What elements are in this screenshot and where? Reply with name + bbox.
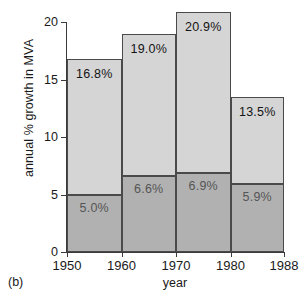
x-tick-label-1950: 1950	[44, 258, 90, 273]
x-tick-mark-1988	[284, 252, 285, 257]
x-tick-mark-1980	[231, 252, 232, 257]
bar-1980-total-label: 13.5%	[232, 105, 284, 119]
bar-1970-lower-segment: 6.9%	[176, 173, 231, 252]
bar-1960-upper-segment: 19.0%	[122, 34, 177, 177]
bar-1960[interactable]: 19.0% 6.6%	[122, 34, 177, 253]
bar-1970-lower-label: 6.9%	[177, 179, 230, 193]
y-tick-label-10: 10	[30, 130, 58, 144]
y-tick-label-0: 0	[30, 245, 58, 259]
bar-1950-total-label: 16.8%	[68, 67, 121, 81]
x-axis-label: year	[66, 276, 284, 290]
bar-1970[interactable]: 20.9% 6.9%	[176, 12, 231, 252]
figure-chart-b: annual % growth in MVA 0 5 10 15 20 16.8…	[0, 0, 304, 299]
bar-1960-lower-label: 6.6%	[123, 182, 176, 196]
x-tick-label-1970: 1970	[153, 258, 199, 273]
bar-1980-lower-segment: 5.9%	[231, 184, 285, 252]
x-tick-label-1980: 1980	[208, 258, 254, 273]
bar-1960-lower-segment: 6.6%	[122, 176, 177, 252]
bar-1980-upper-segment: 13.5%	[231, 97, 285, 184]
bar-1950-lower-segment: 5.0%	[67, 195, 122, 253]
bar-1960-total-label: 19.0%	[123, 42, 176, 56]
bar-1950[interactable]: 16.8% 5.0%	[67, 59, 122, 252]
x-tick-mark-1970	[176, 252, 177, 257]
y-tick-label-15: 15	[30, 73, 58, 87]
bar-1980[interactable]: 13.5% 5.9%	[231, 97, 285, 252]
x-tick-label-1960: 1960	[99, 258, 145, 273]
bar-1970-upper-segment: 20.9%	[176, 12, 231, 173]
x-tick-label-1988: 1988	[261, 258, 304, 273]
x-tick-mark-1960	[122, 252, 123, 257]
bar-1950-upper-segment: 16.8%	[67, 59, 122, 195]
y-tick-label-20: 20	[30, 15, 58, 29]
y-tick-label-5: 5	[30, 188, 58, 202]
figure-caption: (b)	[8, 275, 23, 289]
x-tick-mark-1950	[67, 252, 68, 257]
bar-1950-lower-label: 5.0%	[68, 201, 121, 215]
bar-1970-total-label: 20.9%	[177, 20, 230, 34]
bar-1980-lower-label: 5.9%	[232, 190, 284, 204]
